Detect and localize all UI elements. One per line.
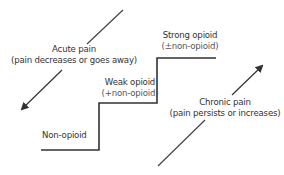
acute-pain-label: Acute pain (pain decreases or goes away)	[6, 44, 142, 66]
acute-arrow-upper-line	[87, 10, 123, 44]
strong-opioid-label: Strong opioid (±non-opioid)	[160, 30, 220, 52]
strong-opioid-subtitle: (±non-opioid)	[160, 41, 220, 52]
strong-opioid-title: Strong opioid	[160, 30, 220, 41]
chronic-pain-subtitle: (pain persists or increases)	[166, 108, 284, 119]
weak-opioid-label: Weak opioid (+non-opioid)	[100, 77, 160, 99]
non-opioid-label: Non-opioid	[42, 130, 92, 141]
acute-pain-subtitle: (pain decreases or goes away)	[6, 55, 142, 66]
chronic-arrow-icon	[232, 66, 262, 95]
weak-opioid-subtitle: (+non-opioid)	[100, 88, 160, 99]
chronic-arrow-lower-line	[158, 120, 205, 166]
chronic-pain-label: Chronic pain (pain persists or increases…	[166, 97, 284, 119]
non-opioid-title: Non-opioid	[42, 130, 92, 141]
weak-opioid-title: Weak opioid	[100, 77, 160, 88]
acute-arrow-icon	[22, 70, 62, 109]
acute-pain-title: Acute pain	[6, 44, 142, 55]
chronic-pain-title: Chronic pain	[166, 97, 284, 108]
